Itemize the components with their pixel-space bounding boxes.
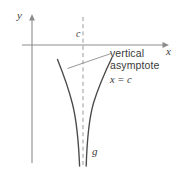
curve-label-g: g xyxy=(92,146,98,157)
vertical-asymptote-figure: y x c g vertical asymptote x = c xyxy=(0,0,180,179)
c-tick-label: c xyxy=(76,29,80,39)
annotation-equation: x = c xyxy=(110,74,176,86)
annotation-text-line-2: asymptote xyxy=(110,60,176,72)
annotation-leader-line xyxy=(68,54,112,69)
figure-canvas xyxy=(0,0,180,179)
annotation-text-line-1: vertical xyxy=(110,48,176,60)
curve-right-branch xyxy=(86,58,112,167)
y-axis-label: y xyxy=(17,10,22,21)
curve-left-branch xyxy=(58,60,80,167)
y-axis-arrowhead xyxy=(29,14,35,21)
asymptote-annotation: vertical asymptote x = c xyxy=(110,48,176,86)
